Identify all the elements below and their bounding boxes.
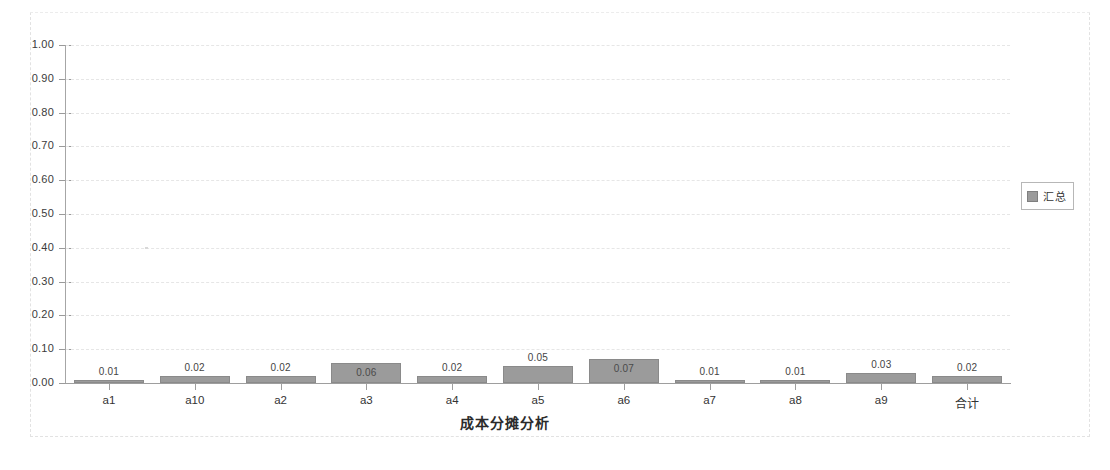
- bar-value-label: 0.01: [99, 366, 119, 377]
- bar-value-label: 0.02: [957, 362, 977, 373]
- x-axis-category-label: a4: [446, 394, 459, 406]
- bar[interactable]: [932, 376, 1002, 383]
- bar[interactable]: [417, 376, 487, 383]
- series-color-swatch: [1027, 191, 1038, 202]
- x-axis-tick-mark: [710, 383, 711, 390]
- x-axis-category-label: a3: [360, 394, 373, 406]
- bar-group: 0.02: [238, 45, 324, 383]
- y-axis-tick-label: 0.00: [20, 376, 54, 388]
- bar-value-label: 0.06: [356, 367, 376, 378]
- y-axis-tick-label: 0.30: [20, 275, 54, 287]
- y-axis-tick-label: 0.60: [20, 173, 54, 185]
- bar-value-label: 0.03: [871, 359, 891, 370]
- x-axis-tick-mark: [195, 383, 196, 390]
- x-axis-category-label: a9: [875, 394, 888, 406]
- bar[interactable]: [846, 373, 916, 383]
- legend-item-label: 汇总: [1043, 188, 1066, 204]
- bar-group: 0.02: [152, 45, 238, 383]
- x-axis-tick-mark: [366, 383, 367, 390]
- bar-group: 0.03: [838, 45, 924, 383]
- bar-value-label: 0.02: [270, 362, 290, 373]
- y-axis-tick-label: 0.90: [20, 72, 54, 84]
- bar-value-label: 0.07: [614, 363, 634, 374]
- bar-group: 0.01: [667, 45, 753, 383]
- scan-speck: [145, 247, 148, 249]
- bar-value-label: 0.02: [442, 362, 462, 373]
- bar-value-label: 0.01: [785, 366, 805, 377]
- bar-group: 0.01: [753, 45, 839, 383]
- y-axis-tick-label: 0.10: [20, 342, 54, 354]
- bar-group: 0.07: [581, 45, 667, 383]
- bar-series-group: 0.010.020.020.060.020.050.070.010.010.03…: [66, 45, 1010, 383]
- bar[interactable]: [246, 376, 316, 383]
- bar-group: 0.06: [323, 45, 409, 383]
- bar-value-label: 0.01: [699, 366, 719, 377]
- y-axis-tick-label: 0.70: [20, 139, 54, 151]
- chart-legend[interactable]: 汇总: [1021, 182, 1074, 210]
- bar-group: 0.01: [66, 45, 152, 383]
- bar[interactable]: [160, 376, 230, 383]
- bar-value-label: 0.05: [528, 352, 548, 363]
- y-axis-tick-label: 0.20: [20, 308, 54, 320]
- y-axis-tick-label: 0.50: [20, 207, 54, 219]
- x-axis-category-label: a2: [274, 394, 287, 406]
- bar-group: 0.02: [409, 45, 495, 383]
- x-axis-tick-mark: [881, 383, 882, 390]
- bar-value-label: 0.02: [185, 362, 205, 373]
- x-axis-tick-mark: [281, 383, 282, 390]
- x-axis-category-label: a7: [703, 394, 716, 406]
- x-axis-category-label: a10: [185, 394, 204, 406]
- x-axis-category-label: a8: [789, 394, 802, 406]
- y-axis-tick-label: 0.40: [20, 241, 54, 253]
- x-axis-tick-mark: [538, 383, 539, 390]
- x-axis-title: 成本分摊分析: [0, 412, 1010, 432]
- x-axis-tick-mark: [624, 383, 625, 390]
- x-axis-category-label: a5: [532, 394, 545, 406]
- x-axis-category-label: a6: [617, 394, 630, 406]
- y-axis-tick-label: 0.80: [20, 106, 54, 118]
- x-axis-tick-mark: [967, 383, 968, 390]
- x-axis-category-label: a1: [103, 394, 116, 406]
- bar-group: 0.05: [495, 45, 581, 383]
- x-axis-tick-mark: [452, 383, 453, 390]
- x-axis-tick-mark: [109, 383, 110, 390]
- bar-group: 0.02: [924, 45, 1010, 383]
- bar-chart: 1.000.900.800.700.600.500.400.300.200.10…: [0, 0, 1110, 470]
- bar[interactable]: [503, 366, 573, 383]
- x-axis-category-label: 合计: [955, 394, 979, 411]
- x-axis-tick-mark: [795, 383, 796, 390]
- y-axis-tick-label: 1.00: [20, 38, 54, 50]
